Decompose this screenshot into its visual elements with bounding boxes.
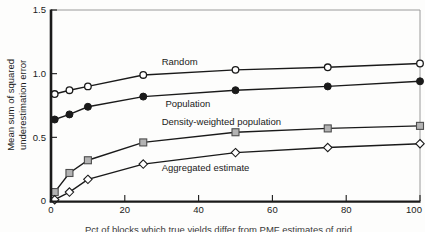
population-marker bbox=[324, 83, 331, 90]
x-tick-label: 20 bbox=[120, 204, 131, 215]
x-tick-label: 40 bbox=[193, 204, 204, 215]
density-weighted-population-marker bbox=[324, 125, 331, 132]
x-axis-caption-clipped: Pct of blocks which true yields differ f… bbox=[85, 224, 352, 232]
series-label-population: Population bbox=[165, 98, 210, 109]
aggregated-estimate-marker bbox=[416, 140, 424, 148]
random-marker bbox=[85, 83, 92, 90]
x-tick-label: 60 bbox=[267, 204, 278, 215]
aggregated-estimate-marker bbox=[324, 143, 332, 151]
y-tick-label: 0.5 bbox=[33, 132, 46, 143]
x-tick-label: 80 bbox=[341, 204, 352, 215]
aggregated-estimate-marker bbox=[84, 175, 92, 183]
density-weighted-population-marker bbox=[84, 157, 91, 164]
density-weighted-population-marker bbox=[417, 122, 424, 129]
y-tick-label: 1.5 bbox=[33, 4, 46, 15]
random-marker bbox=[417, 60, 424, 67]
random-marker bbox=[51, 91, 58, 98]
y-tick-label: 1.0 bbox=[33, 68, 46, 79]
random-marker bbox=[140, 72, 147, 79]
population-marker bbox=[232, 87, 239, 94]
population-marker bbox=[417, 78, 424, 85]
population-marker bbox=[66, 111, 73, 118]
population-marker bbox=[84, 103, 91, 110]
aggregated-estimate-marker bbox=[139, 160, 147, 168]
line-chart: 00.51.01.5020406080100RandomPopulationDe… bbox=[0, 0, 425, 232]
aggregated-estimate-marker bbox=[231, 148, 239, 156]
density-weighted-population-marker bbox=[140, 139, 147, 146]
aggregated-estimate-marker bbox=[65, 188, 73, 196]
series-label-random: Random bbox=[162, 56, 198, 67]
random-marker bbox=[232, 67, 239, 74]
x-tick-label: 100 bbox=[406, 204, 422, 215]
density-weighted-population-marker bbox=[66, 169, 73, 176]
population-marker bbox=[140, 93, 147, 100]
x-tick-label: 0 bbox=[48, 204, 53, 215]
series-label-density-weighted-population: Density-weighted population bbox=[162, 116, 281, 127]
random-marker bbox=[324, 64, 331, 71]
chart-figure: 00.51.01.5020406080100RandomPopulationDe… bbox=[0, 0, 425, 232]
density-weighted-population-marker bbox=[232, 129, 239, 136]
y-tick-label: 0 bbox=[41, 195, 46, 206]
random-marker bbox=[66, 87, 73, 94]
series-label-aggregated-estimate: Aggregated estimate bbox=[162, 162, 250, 173]
